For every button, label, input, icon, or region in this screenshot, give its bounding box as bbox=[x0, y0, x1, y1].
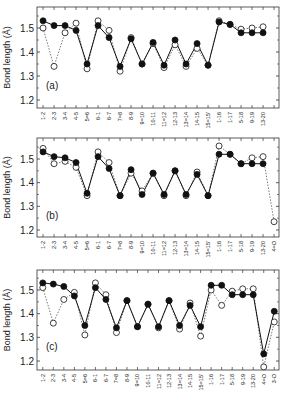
data-point-filled bbox=[238, 161, 244, 167]
x-tick-label: 6-1 bbox=[92, 374, 98, 382]
data-point-filled bbox=[156, 324, 162, 330]
data-point-filled bbox=[73, 160, 79, 166]
panel-label: (b) bbox=[46, 210, 58, 221]
x-tick-label: 4-5 bbox=[71, 374, 77, 382]
data-point-filled bbox=[40, 149, 46, 155]
x-tick-label: 13=14 bbox=[183, 112, 189, 127]
data-point-open bbox=[260, 24, 266, 30]
y-tick-label: 1.4 bbox=[20, 308, 34, 319]
data-point-open bbox=[240, 286, 246, 292]
x-tick-label: 1-17 bbox=[219, 374, 225, 385]
y-tick-label: 1.2 bbox=[20, 356, 34, 367]
data-point-filled bbox=[219, 282, 225, 288]
y-axis-label: Bond length (Å) bbox=[2, 289, 12, 352]
y-tick-label: 1.2 bbox=[20, 95, 34, 106]
data-point-open bbox=[82, 332, 88, 338]
data-point-filled bbox=[249, 161, 255, 167]
x-tick-label: 1-16 bbox=[216, 112, 222, 123]
x-tick-label: 10-11 bbox=[150, 241, 156, 255]
data-point-filled bbox=[260, 30, 266, 36]
x-tick-label: 4-5 bbox=[73, 241, 79, 249]
data-point-filled bbox=[62, 155, 68, 161]
x-tick-label: 3-4 bbox=[61, 374, 67, 382]
bond-length-charts: 1.21.31.41.5Bond length (Å)(a)1-22-33-44… bbox=[0, 0, 288, 400]
x-tick-label: 13-20 bbox=[260, 112, 266, 126]
x-tick-label: 1-17 bbox=[227, 241, 233, 252]
data-point-filled bbox=[172, 37, 178, 43]
x-tick-label: 9=10 bbox=[139, 241, 145, 253]
x-tick-label: 11=12 bbox=[161, 112, 167, 127]
data-point-filled bbox=[62, 23, 68, 29]
data-point-filled bbox=[40, 18, 46, 24]
data-point-open bbox=[260, 154, 266, 160]
x-tick-label: 1-17 bbox=[227, 112, 233, 123]
x-tick-label: 13-20 bbox=[260, 241, 266, 255]
x-tick-label: 6-1 bbox=[95, 241, 101, 249]
data-point-open bbox=[106, 160, 112, 166]
x-tick-label: 15=15' bbox=[205, 112, 211, 129]
x-tick-label: 10-11 bbox=[150, 112, 156, 126]
data-point-filled bbox=[177, 323, 183, 329]
data-point-filled bbox=[82, 323, 88, 329]
x-tick-label: 1-2 bbox=[40, 374, 46, 382]
data-point-filled bbox=[92, 285, 98, 291]
x-tick-label: 6-7 bbox=[106, 241, 112, 249]
x-tick-label: 11=12 bbox=[156, 374, 162, 389]
x-tick-label: 12-13 bbox=[166, 374, 172, 388]
data-point-filled bbox=[117, 63, 123, 69]
data-point-filled bbox=[187, 302, 193, 308]
x-tick-label: 10-11 bbox=[145, 374, 151, 388]
y-axis-label: Bond length (Å) bbox=[2, 156, 12, 219]
data-point-filled bbox=[249, 30, 255, 36]
data-point-filled bbox=[139, 61, 145, 67]
data-point-filled bbox=[227, 21, 233, 27]
data-point-filled bbox=[145, 301, 151, 307]
x-tick-label: 3-4 bbox=[62, 112, 68, 120]
x-tick-label: 11=12 bbox=[161, 241, 167, 256]
x-tick-label: 12-13 bbox=[172, 241, 178, 255]
data-point-filled bbox=[166, 298, 172, 304]
data-point-filled bbox=[84, 190, 90, 196]
data-point-filled bbox=[73, 27, 79, 33]
y-tick-label: 1.3 bbox=[20, 71, 34, 82]
x-tick-label: 8-9 bbox=[128, 241, 134, 249]
x-tick-label: 5=6 bbox=[82, 374, 88, 383]
x-tick-label: 5-18 bbox=[238, 241, 244, 252]
data-point-open bbox=[40, 25, 46, 31]
data-point-open bbox=[249, 155, 255, 161]
x-tick-label: 13-20 bbox=[250, 374, 256, 388]
data-point-open bbox=[51, 161, 57, 167]
panel-a: 1.21.31.41.5Bond length (Å)(a)1-22-33-44… bbox=[2, 7, 279, 129]
y-tick-label: 1.2 bbox=[20, 225, 34, 236]
x-tick-label: 4=O bbox=[271, 240, 277, 251]
data-point-filled bbox=[161, 62, 167, 68]
data-point-open bbox=[50, 320, 56, 326]
x-tick-label: 1-2 bbox=[40, 112, 46, 120]
data-point-filled bbox=[183, 61, 189, 67]
x-tick-label: 9-19 bbox=[249, 241, 255, 252]
plot-frame bbox=[37, 270, 279, 370]
data-point-open bbox=[73, 20, 79, 26]
x-tick-label: 9=10 bbox=[139, 112, 145, 124]
x-tick-label: 2-3 bbox=[51, 241, 57, 249]
bond-length-figure: 1.21.31.41.5Bond length (Å)(a)1-22-33-44… bbox=[0, 0, 288, 400]
data-point-filled bbox=[150, 170, 156, 176]
y-tick-label: 1.4 bbox=[20, 177, 34, 188]
data-point-filled bbox=[95, 23, 101, 29]
data-point-filled bbox=[106, 165, 112, 171]
data-point-filled bbox=[240, 292, 246, 298]
data-point-filled bbox=[95, 154, 101, 160]
data-point-open bbox=[51, 63, 57, 69]
x-tick-label: 5-18 bbox=[238, 112, 244, 123]
x-tick-label: 7=8 bbox=[113, 374, 119, 383]
data-point-filled bbox=[227, 151, 233, 157]
data-point-filled bbox=[205, 62, 211, 68]
data-point-open bbox=[271, 319, 277, 325]
x-tick-label: 13=14 bbox=[183, 241, 189, 256]
x-tick-label: 9-19 bbox=[240, 374, 246, 385]
x-tick-label: 1-16 bbox=[216, 241, 222, 252]
x-tick-label: 5=6 bbox=[84, 241, 90, 250]
data-point-filled bbox=[128, 167, 134, 173]
x-tick-label: 14-15 bbox=[194, 241, 200, 255]
x-tick-label: 3-4 bbox=[62, 241, 68, 249]
